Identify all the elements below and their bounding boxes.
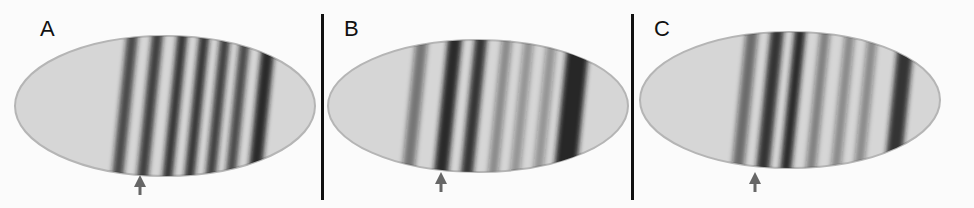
arrow-up-icon bbox=[749, 172, 761, 192]
panel-c: C bbox=[0, 0, 974, 208]
panel-label: C bbox=[654, 18, 670, 40]
figure: A B C bbox=[0, 0, 974, 208]
embryo-image-c bbox=[0, 0, 974, 208]
